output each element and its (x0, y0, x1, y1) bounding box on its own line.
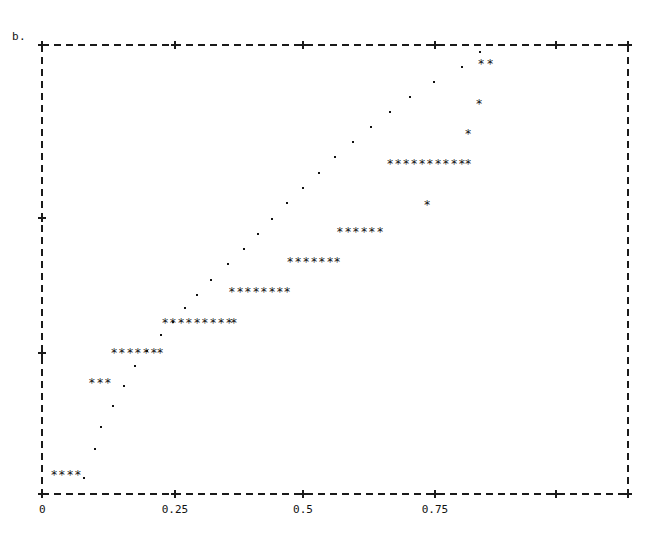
marker-dot (172, 321, 175, 324)
marker-asterisk: * (464, 127, 471, 141)
marker-asterisk: * (268, 285, 275, 299)
y-tick-0 (38, 41, 46, 49)
marker-asterisk: * (486, 57, 493, 71)
marker-asterisk: * (193, 316, 200, 330)
marker-dot (461, 66, 464, 69)
marker-dot (271, 218, 274, 221)
marker-asterisk: * (185, 316, 192, 330)
marker-dot (94, 448, 97, 451)
marker-asterisk: * (352, 225, 359, 239)
marker-asterisk: * (418, 157, 425, 171)
series-dot-trail (83, 51, 482, 480)
x-tick-corner-br (624, 490, 632, 498)
x-tick-top-2 (299, 41, 307, 49)
x-tick-4 (552, 490, 560, 498)
marker-dot (286, 202, 289, 205)
marker-asterisk: * (394, 157, 401, 171)
marker-asterisk: * (376, 225, 383, 239)
marker-dot (184, 307, 187, 310)
x-tick-top-3 (431, 41, 439, 49)
y-tick-1 (38, 214, 46, 222)
marker-dot (370, 126, 373, 129)
marker-dot (352, 141, 355, 144)
marker-asterisk: * (318, 255, 325, 269)
marker-asterisk: * (336, 225, 343, 239)
marker-asterisk: * (88, 376, 95, 390)
tick-marks (38, 41, 632, 498)
marker-dot (83, 477, 86, 480)
figure-panel: b. *************************************… (0, 0, 655, 542)
marker-dot (302, 187, 305, 190)
marker-asterisk: * (426, 157, 433, 171)
marker-dot (257, 233, 260, 236)
marker-dot (146, 350, 149, 353)
x-tick-label-0: 0 (39, 503, 46, 516)
marker-asterisk: * (464, 157, 471, 171)
marker-asterisk: * (118, 346, 125, 360)
y-tick-2 (38, 349, 46, 357)
x-tick-label-2: 0.5 (293, 503, 313, 516)
marker-dot (433, 81, 436, 84)
marker-asterisk: * (423, 198, 430, 212)
marker-asterisk: * (434, 157, 441, 171)
marker-asterisk: * (260, 285, 267, 299)
marker-asterisk: * (477, 57, 484, 71)
marker-asterisk: * (410, 157, 417, 171)
marker-dot (389, 111, 392, 114)
marker-asterisk: * (201, 316, 208, 330)
marker-dot (318, 172, 321, 175)
marker-asterisk: * (333, 255, 340, 269)
marker-asterisk: * (126, 346, 133, 360)
marker-asterisk: * (134, 346, 141, 360)
data-markers: ****************************************… (50, 51, 493, 482)
marker-dot (134, 365, 137, 368)
marker-asterisk: * (161, 316, 168, 330)
marker-dot (196, 294, 199, 297)
x-tick-top-1 (171, 41, 179, 49)
marker-dot (243, 248, 246, 251)
marker-asterisk: * (450, 157, 457, 171)
marker-asterisk: * (236, 285, 243, 299)
marker-asterisk: * (66, 468, 73, 482)
marker-asterisk: * (96, 376, 103, 390)
marker-asterisk: * (386, 157, 393, 171)
marker-dot (479, 51, 482, 54)
marker-asterisk: * (50, 468, 57, 482)
marker-dot (160, 334, 163, 337)
y-tick-3 (38, 490, 46, 498)
marker-asterisk: * (74, 468, 81, 482)
marker-asterisk: * (228, 285, 235, 299)
marker-asterisk: * (302, 255, 309, 269)
marker-asterisk: * (156, 346, 163, 360)
plot-canvas: ****************************************… (0, 0, 655, 542)
marker-dot (112, 405, 115, 408)
marker-asterisk: * (244, 285, 251, 299)
marker-asterisk: * (402, 157, 409, 171)
marker-asterisk: * (344, 225, 351, 239)
marker-asterisk: * (475, 97, 482, 111)
marker-asterisk: * (110, 346, 117, 360)
marker-asterisk: * (104, 376, 111, 390)
marker-asterisk: * (286, 255, 293, 269)
marker-asterisk: * (177, 316, 184, 330)
marker-dot (100, 426, 103, 429)
marker-asterisk: * (142, 346, 149, 360)
marker-asterisk: * (209, 316, 216, 330)
series-asterisk-runs: ****************************************… (50, 57, 493, 482)
marker-asterisk: * (294, 255, 301, 269)
x-tick-2 (299, 490, 307, 498)
marker-dot (123, 385, 126, 388)
plot-frame (42, 45, 628, 494)
marker-asterisk: * (442, 157, 449, 171)
marker-dot (409, 96, 412, 99)
x-tick-corner-tr (624, 41, 632, 49)
marker-asterisk: * (217, 316, 224, 330)
marker-asterisk: * (283, 285, 290, 299)
marker-dot (227, 263, 230, 266)
x-tick-label-3: 0.75 (422, 503, 449, 516)
marker-asterisk: * (252, 285, 259, 299)
marker-dot (210, 279, 213, 282)
x-tick-3 (431, 490, 439, 498)
x-tick-1 (171, 490, 179, 498)
marker-asterisk: * (310, 255, 317, 269)
